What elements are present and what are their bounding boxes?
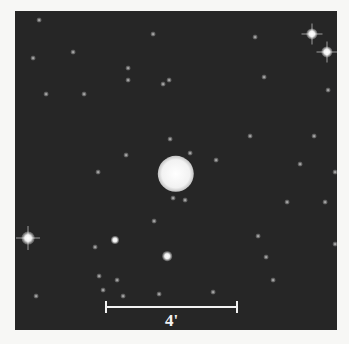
faint-star: [168, 137, 173, 142]
faint-star: [93, 245, 98, 250]
faint-star: [183, 198, 188, 203]
faint-star: [152, 219, 157, 224]
faint-star: [312, 134, 317, 139]
faint-star: [271, 278, 276, 283]
scale-bar-left-tick: [105, 301, 107, 313]
faint-star: [333, 242, 337, 247]
faint-star: [82, 92, 87, 97]
faint-star: [71, 50, 76, 55]
faint-star: [285, 200, 290, 205]
faint-star: [333, 170, 337, 175]
scale-bar-line: [106, 306, 237, 308]
scale-bar-label: 4': [165, 311, 178, 330]
diffraction-spike: [312, 24, 313, 45]
scale-bar-right-tick: [236, 301, 238, 313]
faint-star: [157, 292, 162, 297]
faint-star: [115, 278, 120, 283]
faint-star: [211, 290, 216, 295]
faint-star: [101, 288, 106, 293]
faint-star: [97, 274, 102, 279]
diffraction-spike: [28, 226, 29, 250]
faint-star: [44, 92, 49, 97]
faint-star: [167, 78, 172, 83]
faint-star: [37, 18, 42, 23]
faint-star: [248, 134, 253, 139]
faint-star: [262, 75, 267, 80]
faint-star: [96, 170, 101, 175]
faint-star: [161, 82, 166, 87]
faint-star: [31, 56, 36, 61]
faint-star: [256, 234, 261, 239]
faint-star: [124, 153, 129, 158]
faint-star: [126, 66, 131, 71]
diffraction-spike: [327, 42, 328, 63]
faint-star: [323, 200, 328, 205]
faint-star: [188, 151, 193, 156]
sky-image: 4': [15, 11, 337, 330]
bright-star: [162, 251, 172, 261]
faint-star: [253, 35, 258, 40]
faint-star: [126, 78, 131, 83]
faint-star: [214, 158, 219, 163]
faint-star: [34, 294, 39, 299]
faint-star: [298, 162, 303, 167]
faint-star: [264, 255, 269, 260]
central-nebula: [158, 156, 194, 192]
bright-star: [111, 236, 119, 244]
faint-star: [151, 32, 156, 37]
faint-star: [326, 88, 331, 93]
faint-star: [171, 196, 176, 201]
faint-star: [121, 294, 126, 299]
